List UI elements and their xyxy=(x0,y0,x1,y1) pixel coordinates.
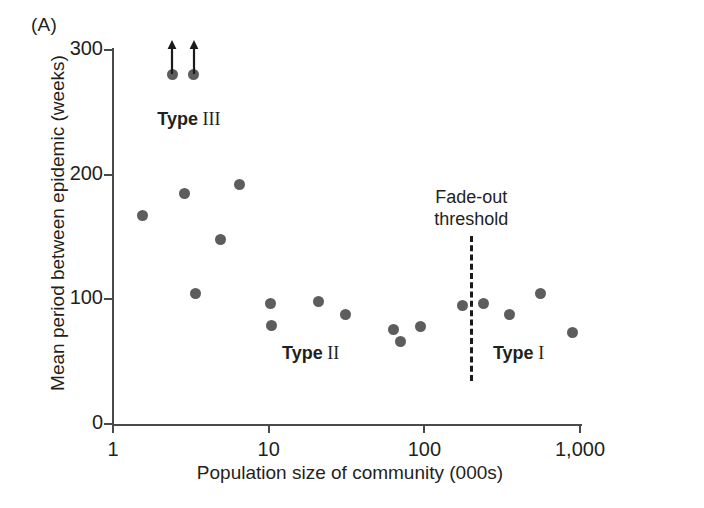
threshold-label-line1: Fade-out xyxy=(388,186,554,208)
data-point xyxy=(395,336,406,347)
data-point xyxy=(265,298,276,309)
x-tick-10 xyxy=(268,424,270,433)
data-point xyxy=(388,324,399,335)
data-point xyxy=(340,309,351,320)
x-tick-label-1: 1 xyxy=(73,438,153,461)
y-tick-label-0: 0 xyxy=(57,411,103,434)
data-point xyxy=(478,298,489,309)
y-tick-label-100: 100 xyxy=(57,286,103,309)
series-label-bold: Type xyxy=(282,343,323,363)
y-axis-line xyxy=(112,48,114,426)
data-point xyxy=(313,296,324,307)
fade-out-threshold-label: Fade-out threshold xyxy=(388,186,554,230)
threshold-label-line2: threshold xyxy=(388,208,554,230)
x-axis-title: Population size of community (000s) xyxy=(130,462,570,484)
y-axis-title: Mean period between epidemic (weeks) xyxy=(47,23,69,423)
up-arrow-icon xyxy=(189,40,199,78)
x-tick-label-100: 100 xyxy=(384,438,464,461)
data-point xyxy=(535,288,546,299)
x-tick-label-10: 10 xyxy=(229,438,309,461)
data-point xyxy=(137,210,148,221)
x-tick-label-1,000: 1,000 xyxy=(540,438,620,461)
x-tick-100 xyxy=(423,424,425,433)
series-label-roman: II xyxy=(323,343,340,363)
series-label-roman: I xyxy=(534,343,545,363)
series-label-type-i: Type I xyxy=(493,343,544,364)
data-point xyxy=(567,327,578,338)
series-label-roman: III xyxy=(198,109,220,129)
series-label-bold: Type xyxy=(493,343,534,363)
figure-panel-a: (A) Mean period between epidemic (weeks)… xyxy=(0,0,704,508)
data-point xyxy=(179,188,190,199)
up-arrow-icon xyxy=(167,40,177,78)
data-point xyxy=(234,179,245,190)
data-point xyxy=(215,234,226,245)
y-tick-label-300: 300 xyxy=(57,37,103,60)
data-point xyxy=(415,321,426,332)
y-tick-300 xyxy=(104,49,113,51)
x-axis-line xyxy=(112,424,582,426)
series-label-type-ii: Type II xyxy=(282,343,339,364)
x-tick-1 xyxy=(112,424,114,433)
y-tick-label-200: 200 xyxy=(57,162,103,185)
series-label-bold: Type xyxy=(157,109,198,129)
data-point xyxy=(457,300,468,311)
y-tick-200 xyxy=(104,174,113,176)
data-point xyxy=(266,320,277,331)
fade-out-threshold-line xyxy=(470,236,473,381)
y-tick-100 xyxy=(104,298,113,300)
data-point xyxy=(190,288,201,299)
series-label-type-iii: Type III xyxy=(157,109,220,130)
x-tick-1,000 xyxy=(579,424,581,433)
data-point xyxy=(504,309,515,320)
